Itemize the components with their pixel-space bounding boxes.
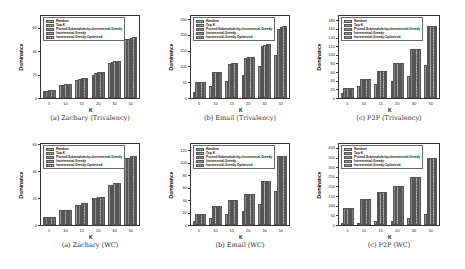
y-tick-mark [336,63,338,64]
bar-incremental-greedy-optimized-k5 [351,88,354,98]
x-tick-label: 20 [91,101,105,106]
y-tick-mark [38,198,40,199]
legend-label: Incremental-Greedy-Optimized [206,35,252,39]
chart-legend: RandomTop-KPruned-Submodularity+Incremen… [341,145,423,169]
y-tick-mark [336,186,338,187]
y-tick-mark [336,38,338,39]
legend-swatch [46,152,54,155]
legend-swatch [46,148,54,151]
x-tick-label: 20 [241,101,255,106]
legend-item: Incremental-Greedy-Optimized [196,35,272,39]
x-tick-label: 50 [274,228,288,233]
x-axis-label: K [239,234,243,240]
y-tick-label: 60 [23,25,37,30]
legend-swatch [344,164,352,167]
y-tick-label: 400 [321,145,335,150]
bar-incremental-greedy-optimized-k15 [236,200,239,225]
y-tick-mark [188,213,190,214]
legend-swatch [46,156,54,159]
y-axis-label: Dominance [18,170,24,200]
y-tick-mark [188,66,190,67]
legend-swatch [196,20,204,23]
x-tick-label: 30 [258,101,272,106]
y-tick-mark [38,171,40,172]
y-tick-label: 150 [321,194,335,199]
x-tick-label: 5 [340,228,354,233]
x-tick-label: 30 [407,228,421,233]
legend-swatch [196,160,204,163]
chart-plot-area: RandomTop-KPruned-Submodularity+Incremen… [190,15,290,99]
y-tick-mark [188,188,190,189]
y-tick-mark [336,72,338,73]
bar-incremental-greedy-optimized-k15 [385,71,388,98]
legend-swatch [196,24,204,27]
y-tick-mark [336,46,338,47]
x-tick-label: 20 [241,228,255,233]
y-tick-mark [188,51,190,52]
y-tick-mark [38,28,40,29]
y-tick-label: 0 [23,96,37,101]
y-axis-label: Dominance [168,42,174,72]
bar-incremental-greedy-optimized-k20 [102,72,105,98]
legend-swatch [46,164,54,167]
bar-incremental-greedy-optimized-k5 [203,214,206,225]
bar-incremental-greedy-optimized-k15 [86,78,89,98]
y-tick-label: 200 [173,32,187,37]
y-tick-label: 60 [23,142,37,147]
y-tick-label: 250 [321,174,335,179]
y-tick-label: 100 [321,203,335,208]
x-tick-label: 10 [357,228,371,233]
y-tick-label: 60 [173,185,187,190]
y-tick-label: 50 [173,80,187,85]
y-tick-mark [336,89,338,90]
x-tick-label: 10 [59,228,73,233]
y-tick-mark [336,215,338,216]
x-tick-label: 30 [108,101,122,106]
legend-swatch [46,36,54,39]
legend-label: Incremental-Greedy-Optimized [56,163,102,167]
bar-incremental-greedy-optimized-k5 [203,82,206,98]
chart-plot-area: RandomTop-KPruned-Submodularity+Incremen… [338,15,440,99]
legend-swatch [344,20,352,23]
legend-label: Incremental-Greedy-Optimized [56,35,102,39]
legend-swatch [344,24,352,27]
y-tick-mark [336,225,338,226]
x-axis-label: K [388,107,392,113]
legend-item: Incremental-Greedy-Optimized [344,163,420,167]
bar-incremental-greedy-optimized-k10 [69,84,72,98]
y-tick-label: 20 [23,72,37,77]
x-tick-label: 5 [42,101,56,106]
chart-plot-area: RandomTop-KPruned-Submodularity+Incremen… [190,143,290,226]
y-tick-label: 0 [321,223,335,228]
y-tick-mark [188,35,190,36]
legend-swatch [196,164,204,167]
x-tick-label: 50 [424,101,438,106]
y-tick-label: 140 [321,35,335,40]
x-tick-label: 15 [225,228,239,233]
y-tick-mark [336,148,338,149]
chart-plot-area: RandomTop-KPruned-Submodularity+Incremen… [40,15,140,99]
bar-incremental-greedy-optimized-k10 [368,199,371,225]
x-axis-label: K [388,234,392,240]
y-tick-label: 20 [321,87,335,92]
y-tick-mark [336,55,338,56]
legend-swatch [344,28,352,31]
bar-incremental-greedy-optimized-k20 [401,63,404,98]
y-tick-label: 250 [173,17,187,22]
legend-swatch [344,156,352,159]
chart-legend: RandomTop-KPruned-Submodularity+Incremen… [43,17,125,41]
y-tick-label: 0 [23,223,37,228]
y-tick-mark [38,98,40,99]
y-tick-mark [336,177,338,178]
legend-swatch [46,24,54,27]
legend-label: Incremental-Greedy-Optimized [206,163,252,167]
y-tick-label: 60 [321,70,335,75]
chart-caption: (b) Email (WC) [163,241,318,249]
x-axis-label: K [89,234,93,240]
bar-incremental-greedy-optimized-k30 [118,183,121,225]
legend-label: Incremental-Greedy-Optimized [354,163,400,167]
y-tick-label: 350 [321,155,335,160]
y-tick-mark [336,196,338,197]
chart-caption: (c) P2P (WC) [312,241,465,249]
legend-item: Incremental-Greedy-Optimized [46,35,122,39]
